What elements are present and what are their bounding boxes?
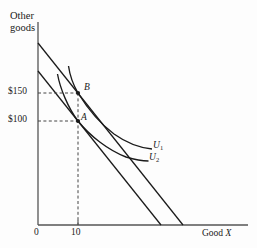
indifference-curve-u1 — [69, 66, 153, 149]
plot-canvas — [0, 0, 257, 248]
x-axis-label: Good X — [202, 229, 231, 239]
curve-u1-subscript: 1 — [160, 144, 163, 151]
point-a-marker — [76, 119, 80, 123]
y-axis-label-line1: Other — [10, 10, 34, 21]
y-tick-label-150: $150 — [8, 87, 27, 97]
curve-u1-letter: U — [153, 140, 160, 150]
indifference-curve-figure: Other goods $150 $100 0 10 Good X A B U1… — [0, 0, 257, 248]
x-axis-label-variable: X — [226, 228, 232, 238]
curve-u2-letter: U — [149, 152, 156, 162]
point-b-label: B — [84, 83, 90, 93]
x-tick-label-0: 0 — [34, 228, 39, 238]
point-b-marker — [76, 91, 80, 95]
x-tick-label-10: 10 — [71, 228, 81, 238]
x-axis-label-text: Good — [202, 228, 223, 238]
curve-u1-label: U1 — [153, 141, 163, 151]
curve-u2-label: U2 — [149, 153, 159, 163]
indifference-curve-u2 — [58, 74, 149, 161]
point-a-label: A — [81, 113, 87, 123]
y-tick-label-100: $100 — [8, 115, 27, 125]
y-axis-label-line2: goods — [10, 22, 35, 33]
budget-line-outer — [38, 43, 183, 225]
curve-u2-subscript: 2 — [156, 156, 159, 163]
